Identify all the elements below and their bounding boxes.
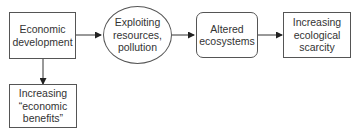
node-label: Altered ecosystems	[199, 23, 254, 48]
node-altered-ecosystems: Altered ecosystems	[196, 12, 258, 58]
node-label: Increasing ecological scarcity	[293, 16, 341, 54]
node-increasing-economic-benefits: Increasing “economic benefits”	[9, 84, 77, 128]
node-label: Increasing “economic benefits”	[19, 87, 67, 125]
node-exploiting-resources: Exploiting resources, pollution	[103, 6, 172, 64]
node-label: Exploiting resources, pollution	[113, 16, 162, 54]
node-label: Economic development	[12, 23, 72, 48]
node-increasing-ecological-scarcity: Increasing ecological scarcity	[283, 12, 351, 58]
node-economic-development: Economic development	[9, 12, 76, 59]
